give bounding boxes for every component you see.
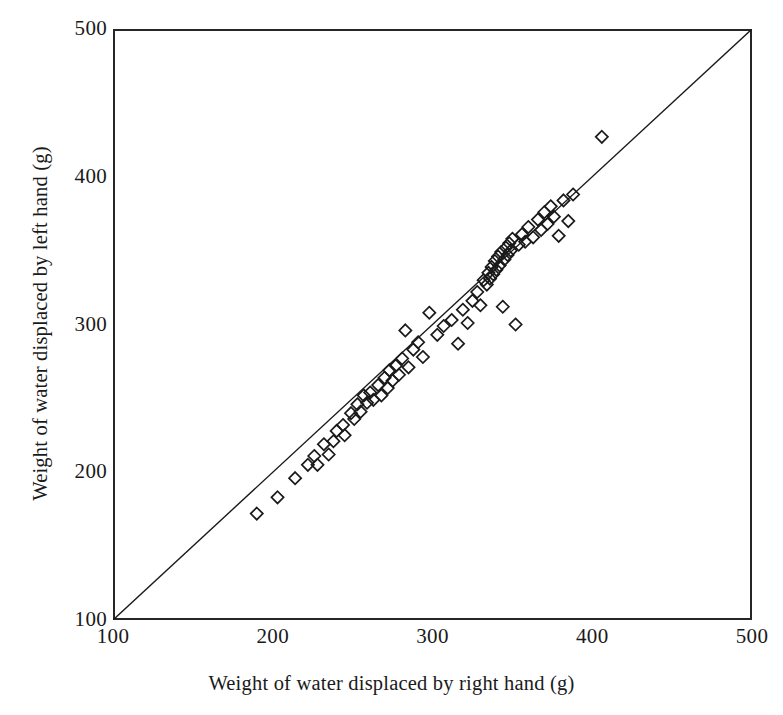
data-point-marker xyxy=(399,324,411,336)
data-point-marker xyxy=(596,131,608,143)
data-point-marker xyxy=(337,419,349,431)
x-tick-label-400: 400 xyxy=(562,624,622,649)
y-tick-label-500: 500 xyxy=(47,16,107,41)
data-point-marker xyxy=(553,230,565,242)
data-point-marker xyxy=(423,307,435,319)
plot-data-layer xyxy=(113,29,752,620)
data-point-marker xyxy=(462,317,474,329)
y-tick-label-200: 200 xyxy=(47,459,107,484)
equality-reference-line xyxy=(113,29,752,620)
x-tick-label-500: 500 xyxy=(722,624,782,649)
data-point-marker xyxy=(271,491,283,503)
scatter-plot-figure: 100 200 300 400 500 100 200 300 400 500 … xyxy=(0,0,783,715)
data-point-marker xyxy=(452,338,464,350)
scatter-points-group xyxy=(251,131,608,520)
data-point-marker xyxy=(562,215,574,227)
data-point-marker xyxy=(457,304,469,316)
data-point-marker xyxy=(509,318,521,330)
y-axis-title: Weight of water displaced by left hand (… xyxy=(29,108,52,538)
data-point-marker xyxy=(417,351,429,363)
data-point-marker xyxy=(339,429,351,441)
equality-line xyxy=(113,29,752,620)
data-point-marker xyxy=(474,299,486,311)
data-point-marker xyxy=(497,301,509,313)
x-tick-label-100: 100 xyxy=(83,624,143,649)
y-tick-label-300: 300 xyxy=(47,312,107,337)
y-tick-label-400: 400 xyxy=(47,164,107,189)
x-axis-title: Weight of water displaced by right hand … xyxy=(0,672,783,695)
data-point-marker xyxy=(289,472,301,484)
x-tick-label-200: 200 xyxy=(243,624,303,649)
x-tick-label-300: 300 xyxy=(403,624,463,649)
data-point-marker xyxy=(251,508,263,520)
